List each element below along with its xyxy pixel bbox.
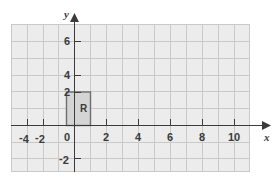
x-tick-label-4: 4: [135, 132, 141, 143]
y-axis-label: y: [64, 9, 69, 20]
x-tick-label-6: 6: [167, 132, 173, 143]
shape-label-r: R: [80, 104, 87, 114]
x-tick-label-8: 8: [199, 132, 205, 143]
y-tick-value-neg2: 2: [63, 154, 69, 166]
x-tick-label-0: 0: [64, 132, 70, 143]
coordinate-grid-figure: -4 -2 0 2 4 6 8 10 6 4 2 -2 y x R: [0, 0, 278, 183]
y-tick-label-neg2: -2: [59, 153, 69, 166]
x-tick-label-neg2: -2: [35, 132, 45, 145]
y-tick-label-4: 4: [64, 70, 70, 81]
y-tick-label-2: 2: [64, 87, 70, 98]
x-tick-label-neg4: -4: [19, 132, 29, 145]
grid-background: [11, 24, 250, 172]
x-axis-arrow: [262, 121, 271, 130]
x-tick-value-neg2: 2: [39, 133, 45, 145]
x-tick-label-10: 10: [228, 132, 240, 143]
y-tick-label-6: 6: [64, 36, 70, 47]
x-axis-label: x: [264, 132, 270, 143]
y-axis-arrow: [70, 13, 79, 22]
coordinate-plane-svg: [0, 0, 278, 183]
x-tick-label-2: 2: [103, 132, 109, 143]
x-tick-value-neg4: 4: [23, 133, 29, 145]
